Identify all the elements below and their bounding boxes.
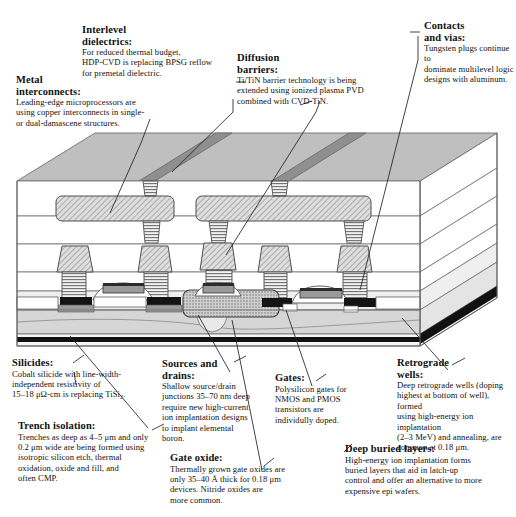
tungsten-contact-1 [62, 272, 86, 300]
via-top-2 [271, 181, 288, 196]
sd-junction-1 [58, 305, 94, 312]
callout-body: For reduced thermal budget, HDP-CVD is r… [82, 47, 260, 78]
via-m2-m1-2 [209, 221, 228, 243]
sti-left-edge [17, 297, 58, 309]
metal2-line-left [56, 196, 174, 221]
sti-mid-3 [344, 306, 358, 312]
top-dielectric-surface [17, 133, 497, 181]
callout-contacts-and-vias: Contacts and vias: Tungsten plugs contin… [424, 20, 516, 85]
callout-heading: Sources and drains: [162, 358, 274, 381]
callout-heading: Silicides: [12, 357, 164, 369]
callout-deep-buried-layers: Deep buried layers: High-energy ion impl… [345, 443, 513, 496]
via-m2-m1-1 [143, 221, 160, 243]
callout-sources-and-drains: Sources and drains: Shallow source/drain… [162, 358, 274, 443]
callout-body: High-energy ion implantation forms burie… [345, 455, 513, 497]
via-top-1 [143, 181, 158, 196]
via-m2-m1-3 [344, 221, 364, 243]
callout-heading: Deep buried layers: [345, 443, 513, 455]
callout-heading: Trench isolation: [18, 420, 184, 432]
contact-plug-4 [258, 246, 292, 272]
callout-body: Thermally grown gate oxides are only 35–… [170, 464, 330, 506]
contact-plug-1 [57, 246, 93, 272]
poly-gate-left [103, 285, 144, 293]
callout-gates: Gates: Polysilicon gates for NMOS and PM… [275, 372, 360, 425]
gate-silicide-left [103, 283, 144, 286]
callout-trench-isolation: Trench isolation: Trenches as deep as 4–… [18, 420, 184, 484]
callout-heading: Contacts and vias: [424, 20, 516, 43]
tungsten-contact-gate [206, 270, 232, 284]
callout-body: Shallow source/drain junctions 35–70 nm … [162, 381, 274, 443]
callout-heading: Interlevel dielectrics: [82, 24, 260, 47]
callout-metal-interconnects: Metal interconnects: Leading-edge microp… [16, 74, 166, 128]
sti-mid-1 [94, 297, 146, 307]
callout-body: Ti/TiN barrier technology is being exten… [237, 75, 387, 106]
callout-retrograde-wells: Retrograde wells: Deep retrograde wells … [397, 357, 515, 453]
callout-heading: Gates: [275, 372, 360, 384]
callout-heading: Diffusion barriers: [237, 52, 387, 75]
gate-silicide-right [300, 288, 342, 291]
wafer-block [17, 133, 497, 346]
contact-plug-5 [337, 246, 372, 272]
gate-silicide-center [203, 283, 234, 286]
silicide-sd-4 [344, 298, 376, 307]
callout-gate-oxide: Gate oxide: Thermally grown gate oxides … [170, 452, 330, 505]
callout-body: Tungsten plugs continue to dominate mult… [424, 43, 516, 85]
sti-right-edge [376, 297, 420, 309]
poly-gate-center [203, 285, 234, 293]
callout-diffusion-barriers: Diffusion barriers: Ti/TiN barrier techn… [237, 52, 387, 106]
silicide-sd-1 [60, 297, 92, 305]
callout-silicides: Silicides: Cobalt silicide with line-wid… [12, 357, 164, 400]
sd-junction-2 [146, 305, 182, 312]
silicide-sd-2 [147, 297, 181, 305]
callout-interlevel-dielectrics: Interlevel dielectrics: For reduced ther… [82, 24, 260, 78]
contact-plug-2 [138, 246, 172, 272]
callout-body: Polysilicon gates for NMOS and PMOS tran… [275, 384, 360, 426]
callout-heading: Retrograde wells: [397, 357, 515, 380]
callout-body: Cobalt silicide with line-width- indepen… [12, 369, 164, 400]
poly-gate-right [300, 290, 342, 298]
callout-body: Leading-edge microprocessors are using c… [16, 97, 166, 128]
buried-layer-black-band [17, 337, 420, 342]
callout-body: Trenches as deep as 4–5 μm and only 0.2 … [18, 432, 184, 484]
metal2-line-right [196, 196, 371, 221]
callout-heading: Gate oxide: [170, 452, 330, 464]
callout-body: Deep retrograde wells (doping highest at… [397, 380, 515, 453]
